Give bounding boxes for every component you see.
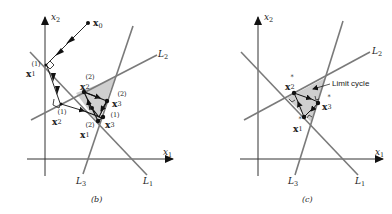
caption-b: (b) — [91, 196, 102, 204]
point-x3-2 — [105, 99, 109, 103]
label-x0: x0 — [93, 19, 103, 28]
label-x2-1: x(1)2 — [52, 115, 69, 127]
label-x2-star: x*2 — [285, 80, 302, 92]
x-axis-label-b: x1 — [163, 148, 172, 157]
label-L3-c: L3 — [288, 177, 298, 186]
label-x3-star: x*3 — [322, 100, 339, 112]
x-axis-label-c: x1 — [375, 148, 384, 157]
panel-c — [240, 17, 383, 176]
point-x1-1 — [45, 64, 48, 67]
point-x3-star — [316, 101, 320, 105]
point-x2-1 — [60, 103, 63, 106]
point — [90, 106, 94, 110]
label-x1-2: x(2)1 — [80, 128, 97, 140]
label-x1-1: x(1)1 — [26, 67, 43, 79]
label-L2-c: L2 — [372, 47, 382, 56]
projection-x0-x1 — [47, 23, 88, 64]
label-L1-c: L1 — [355, 177, 365, 186]
label-L1-b: L1 — [143, 177, 153, 186]
label-x3-2: x(2)3 — [112, 97, 129, 109]
limit-cycle-label: Limit cycle — [332, 80, 369, 88]
point-x1-star — [302, 115, 306, 119]
label-x3-1: x(1)3 — [105, 118, 122, 130]
label-L3-b: L3 — [76, 177, 86, 186]
projection-x1-x2 — [47, 66, 60, 103]
label-L2-b: L2 — [158, 50, 168, 59]
line-L1-c — [241, 52, 358, 175]
y-axis-label-c: x2 — [264, 13, 273, 22]
point-x0 — [86, 21, 90, 25]
point-x1-2 — [96, 119, 100, 123]
arrow-icon — [55, 48, 64, 56]
panel-b — [27, 17, 173, 176]
label-x2-2: x(2)2 — [80, 80, 97, 92]
label-x1-star: x*1 — [293, 122, 310, 134]
y-axis-label-b: x2 — [51, 13, 60, 22]
caption-c: (c) — [302, 196, 313, 204]
